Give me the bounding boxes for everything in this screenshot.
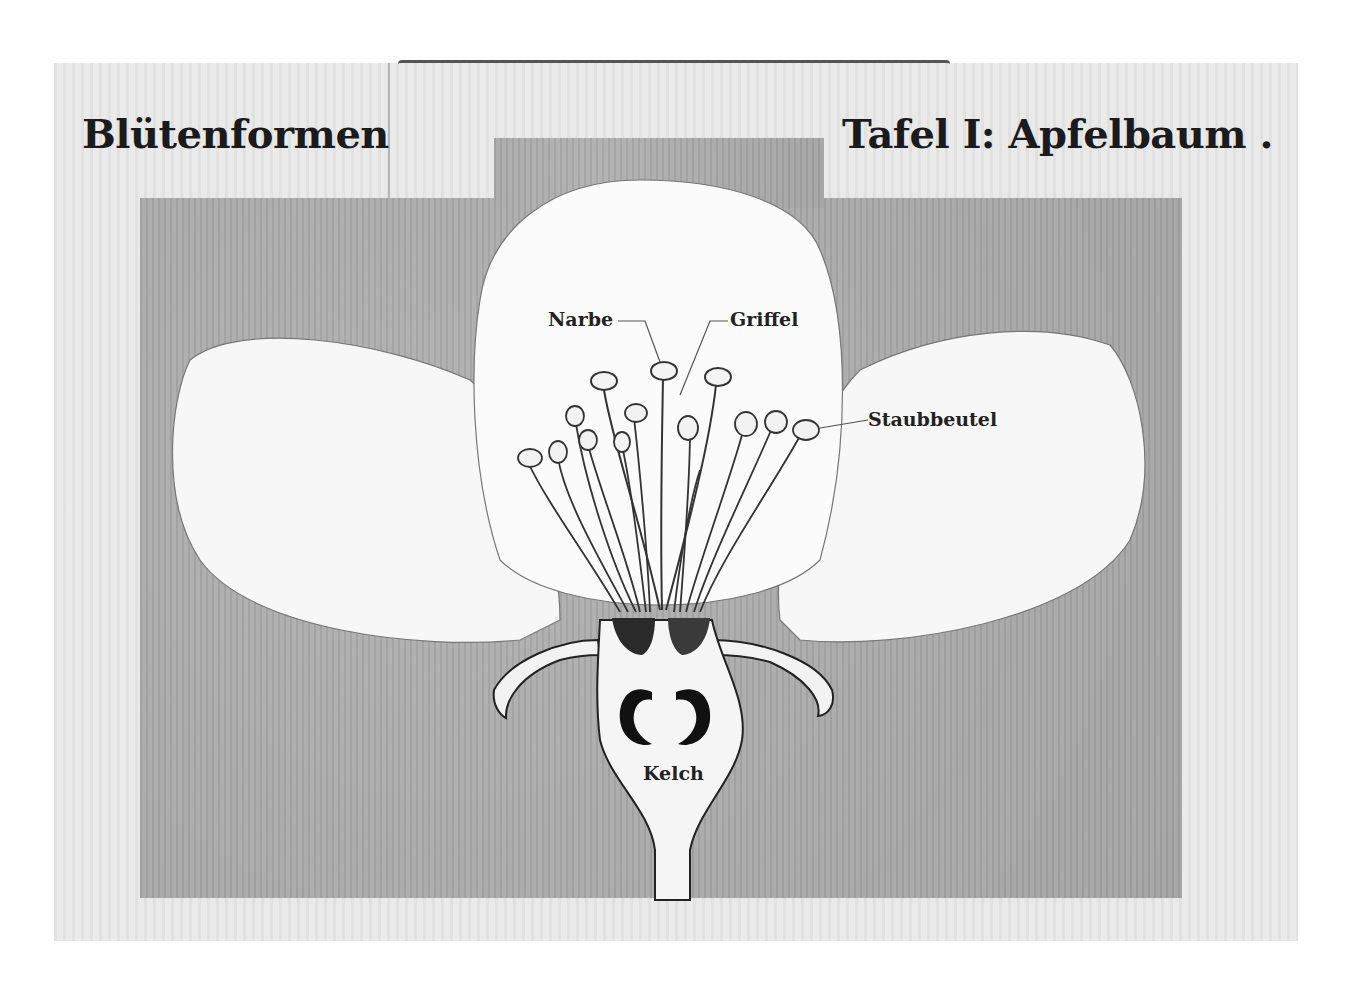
petal-top — [474, 180, 842, 605]
label-griffel: Griffel — [730, 308, 798, 330]
label-narbe: Narbe — [548, 308, 613, 330]
receptacle — [597, 620, 743, 900]
label-kelch: Kelch — [643, 762, 704, 784]
label-staubbeutel: Staubbeutel — [868, 408, 997, 430]
sepal-left — [494, 640, 600, 718]
apple-blossom-diagram — [0, 0, 1352, 995]
